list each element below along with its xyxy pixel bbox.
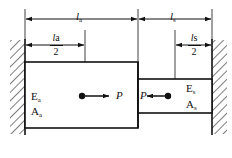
aluminum-modulus-label: Ea [31,91,41,102]
force-label-right: P [140,90,147,101]
right-rigid-wall [212,39,227,135]
dimension-label-ls: ls [170,11,176,22]
diagram-canvas [0,0,232,158]
force-label-left: P [116,90,123,101]
left-rigid-wall [10,39,25,135]
dimension-label-la: la [76,11,82,22]
steel-modulus-label: Es [186,83,195,94]
steel-area-label: As [186,99,197,110]
mechanics-diagram: la ls la 2 ls 2 Ea Aa Es As P P [0,0,232,158]
aluminum-area-label: Aa [31,106,42,117]
dimension-label-ls-half: ls 2 [184,33,204,57]
dimension-label-la-half: la 2 [46,33,66,57]
